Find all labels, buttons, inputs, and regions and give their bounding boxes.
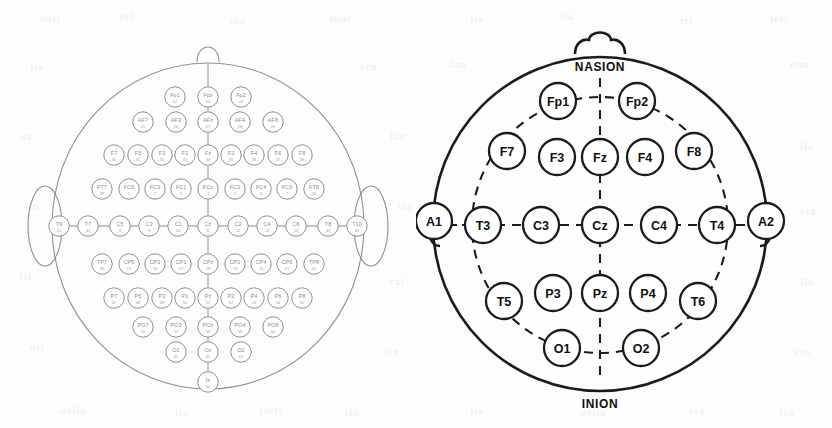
electrode-Pz[interactable]: Pz51 xyxy=(198,288,218,308)
electrode-CP5[interactable]: CP515 xyxy=(119,254,139,274)
electrode-A2[interactable]: A2 xyxy=(748,203,784,239)
electrode-number: 33 xyxy=(183,157,187,162)
electrode-A1[interactable]: A1 xyxy=(416,203,452,239)
electrode-CP2[interactable]: CP219 xyxy=(225,254,245,274)
electrode-P8[interactable]: P855 xyxy=(292,288,312,308)
electrode-Fz[interactable]: Fz xyxy=(582,139,618,175)
electrode-label: F6 xyxy=(275,150,282,156)
electrode-F3[interactable]: F332 xyxy=(152,145,172,165)
electrode-label: C1 xyxy=(174,221,181,227)
electrode-AF8[interactable]: AF829 xyxy=(263,112,283,132)
electrode-CP1[interactable]: CP117 xyxy=(171,254,191,274)
electrode-T8[interactable]: T843 xyxy=(318,216,338,236)
electrode-CP6[interactable]: CP621 xyxy=(277,254,297,274)
electrode-F2[interactable]: F235 xyxy=(221,145,241,165)
electrode-Fpz[interactable]: Fpz23 xyxy=(198,87,218,107)
electrode-number: 6 xyxy=(260,191,262,196)
electrode-CPz[interactable]: CPz18 xyxy=(198,254,218,274)
electrode-AF4[interactable]: AF428 xyxy=(230,112,250,132)
electrode-Cz[interactable]: Cz xyxy=(582,207,618,243)
electrode-P2[interactable]: P252 xyxy=(221,288,241,308)
electrode-P4[interactable]: P4 xyxy=(630,275,666,311)
electrode-P7[interactable]: P747 xyxy=(104,288,124,308)
electrode-Cz[interactable]: Cz11 xyxy=(198,216,218,236)
electrode-PO3[interactable]: PO357 xyxy=(166,317,186,337)
electrode-O1[interactable]: O1 xyxy=(544,330,580,366)
electrode-PO4[interactable]: PO459 xyxy=(230,317,250,337)
electrode-FT7[interactable]: FT739 xyxy=(92,179,112,199)
electrode-AFz[interactable]: AFz27 xyxy=(198,112,218,132)
electrode-FT8[interactable]: FT840 xyxy=(304,179,324,199)
electrode-F1[interactable]: F133 xyxy=(175,145,195,165)
electrode-P3[interactable]: P349 xyxy=(152,288,172,308)
electrode-FC6[interactable]: FC67 xyxy=(277,179,297,199)
electrode-label: P6 xyxy=(275,293,282,299)
electrode-Iz[interactable]: Iz64 xyxy=(198,372,218,392)
electrode-T6[interactable]: T6 xyxy=(680,283,716,319)
electrode-T4[interactable]: T4 xyxy=(699,207,735,243)
electrode-label: F8 xyxy=(687,145,702,159)
electrode-C5[interactable]: C58 xyxy=(110,216,130,236)
electrode-Fp1[interactable]: Fp122 xyxy=(165,87,185,107)
electrode-T10[interactable]: T1044 xyxy=(347,216,367,236)
electrode-C3[interactable]: C39 xyxy=(139,216,159,236)
electrode-T3[interactable]: T3 xyxy=(465,207,501,243)
electrode-C3[interactable]: C3 xyxy=(523,207,559,243)
electrode-number: 28 xyxy=(238,124,242,129)
electrode-C2[interactable]: C212 xyxy=(228,216,248,236)
electrode-F7[interactable]: F730 xyxy=(104,145,124,165)
electrode-P4[interactable]: P453 xyxy=(244,288,264,308)
electrode-T9[interactable]: T942 xyxy=(49,216,69,236)
electrode-AF3[interactable]: AF326 xyxy=(166,112,186,132)
electrode-Fz[interactable]: Fz34 xyxy=(198,145,218,165)
electrode-P3[interactable]: P3 xyxy=(535,275,571,311)
electrode-label: P3 xyxy=(545,287,560,301)
electrode-O1[interactable]: O161 xyxy=(166,342,186,362)
electrode-Fp2[interactable]: Fp224 xyxy=(231,87,251,107)
electrode-Fp2[interactable]: Fp2 xyxy=(619,83,655,119)
electrode-O2[interactable]: O263 xyxy=(231,342,251,362)
electrode-Pz[interactable]: Pz xyxy=(582,275,618,311)
electrode-F4[interactable]: F436 xyxy=(244,145,264,165)
electrode-label: CP2 xyxy=(230,259,241,265)
electrode-label: F7 xyxy=(111,150,118,156)
electrode-number: 25 xyxy=(141,124,145,129)
inion-label: INION xyxy=(582,397,618,411)
electrode-F8[interactable]: F838 xyxy=(292,145,312,165)
electrode-Fp1[interactable]: Fp1 xyxy=(540,83,576,119)
electrode-C1[interactable]: C110 xyxy=(168,216,188,236)
electrode-F8[interactable]: F8 xyxy=(676,133,712,169)
electrode-C4[interactable]: C4 xyxy=(641,207,677,243)
electrode-label: TP7 xyxy=(97,259,107,265)
electrode-F3[interactable]: F3 xyxy=(539,139,575,175)
electrode-FC3[interactable]: FC32 xyxy=(145,179,165,199)
electrode-F7[interactable]: F7 xyxy=(489,133,525,169)
electrode-FC4[interactable]: FC46 xyxy=(251,179,271,199)
electrode-TP8[interactable]: TP845 xyxy=(304,254,324,274)
electrode-POz[interactable]: POz58 xyxy=(198,317,218,337)
electrode-CP3[interactable]: CP316 xyxy=(145,254,165,274)
electrode-C4[interactable]: C413 xyxy=(257,216,277,236)
electrode-CP4[interactable]: CP420 xyxy=(251,254,271,274)
electrode-F4[interactable]: F4 xyxy=(627,139,663,175)
electrode-C6[interactable]: C614 xyxy=(286,216,306,236)
electrode-P6[interactable]: P654 xyxy=(268,288,288,308)
electrode-label: O2 xyxy=(237,347,244,353)
electrode-P1[interactable]: P150 xyxy=(175,288,195,308)
electrode-number: 57 xyxy=(174,329,178,334)
electrode-T5[interactable]: T5 xyxy=(486,283,522,319)
electrode-AF7[interactable]: AF725 xyxy=(133,112,153,132)
electrode-PO7[interactable]: PO756 xyxy=(133,317,153,337)
electrode-PO8[interactable]: PO860 xyxy=(263,317,283,337)
electrode-F5[interactable]: F531 xyxy=(128,145,148,165)
electrode-FCz[interactable]: FCz4 xyxy=(198,179,218,199)
electrode-O2[interactable]: O2 xyxy=(623,330,659,366)
electrode-F6[interactable]: F637 xyxy=(268,145,288,165)
electrode-FC5[interactable]: FC51 xyxy=(119,179,139,199)
electrode-TP7[interactable]: TP746 xyxy=(92,254,112,274)
electrode-P5[interactable]: P548 xyxy=(128,288,148,308)
electrode-FC2[interactable]: FC25 xyxy=(225,179,245,199)
electrode-FC1[interactable]: FC13 xyxy=(171,179,191,199)
electrode-Oz[interactable]: Oz62 xyxy=(198,342,218,362)
electrode-T7[interactable]: T741 xyxy=(78,216,98,236)
